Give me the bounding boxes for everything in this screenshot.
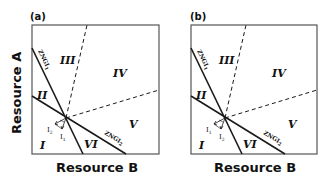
zngi-2-label: ZNGI2 (262, 129, 284, 147)
region-I: I (198, 139, 205, 152)
region-V: V (288, 118, 298, 131)
dashed-boundary-right (66, 90, 159, 118)
vector-upper-label: I2 (47, 126, 53, 135)
vector-lower-label: I1 (60, 133, 66, 142)
panel-b: (b) Resource B I1 I2 ZNGI1 ZNGI2 I II II… (159, 0, 322, 178)
x-axis-label: Resource B (214, 160, 296, 175)
zngi-2-label: ZNGI2 (103, 129, 125, 147)
region-I: I (39, 139, 46, 152)
region-V: V (129, 118, 139, 131)
dashed-boundary-right (225, 90, 317, 118)
region-IV: IV (112, 67, 128, 80)
region-III: III (218, 54, 235, 67)
vector-lower-label: I2 (219, 133, 225, 142)
panel-label: (a) (30, 11, 46, 22)
panel-a: (a) Resource A Resource B I2 I1 ZNGI1 ZN… (0, 0, 163, 178)
panel-b-diagram: (b) Resource B I1 I2 ZNGI1 ZNGI2 I II II… (159, 0, 322, 178)
dashed-boundary-upper (66, 25, 87, 118)
panel-label: (b) (190, 11, 206, 22)
region-VI: VI (243, 138, 258, 151)
region-II: II (195, 89, 207, 102)
x-axis-label: Resource B (56, 160, 138, 175)
region-III: III (59, 54, 76, 67)
region-VI: VI (84, 138, 99, 151)
vector-upper-label: I1 (206, 126, 212, 135)
region-II: II (36, 89, 48, 102)
panel-a-diagram: (a) Resource A Resource B I2 I1 ZNGI1 ZN… (0, 0, 163, 178)
dashed-boundary-upper (225, 25, 246, 118)
y-axis-label: Resource A (9, 52, 24, 134)
region-IV: IV (271, 67, 287, 80)
